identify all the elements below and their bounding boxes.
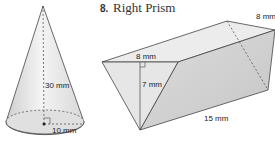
prism-title: Right Prism [113, 0, 176, 15]
triangle-base-label: 8 mm [136, 52, 156, 61]
prism-figure: 8. Right Prism 8 mm 7 mm 15 mm 8 mm [100, 0, 275, 130]
cone-figure: 30 mm 10 mm [6, 6, 84, 135]
geometry-figures: 30 mm 10 mm 8. Right Prism 8 mm 7 mm 15 … [0, 0, 275, 146]
triangle-height-label: 7 mm [142, 80, 162, 89]
cone-height-label: 30 mm [45, 81, 70, 90]
problem-number: 8. [100, 3, 109, 14]
top-width-label: 8 mm [256, 12, 275, 21]
prism-length-label: 15 mm [204, 114, 229, 123]
cone-radius-label: 10 mm [52, 126, 77, 135]
